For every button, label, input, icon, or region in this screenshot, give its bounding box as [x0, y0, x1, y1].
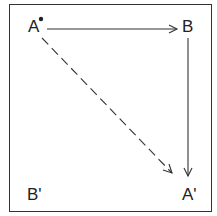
- dashed-arrow-a-to-a-prime: [42, 38, 172, 173]
- diagram-arrows: [0, 0, 217, 216]
- arrow-a-to-b: [47, 25, 177, 33]
- dot-marker-icon: [39, 17, 43, 21]
- arrow-b-to-a-prime: [184, 38, 192, 176]
